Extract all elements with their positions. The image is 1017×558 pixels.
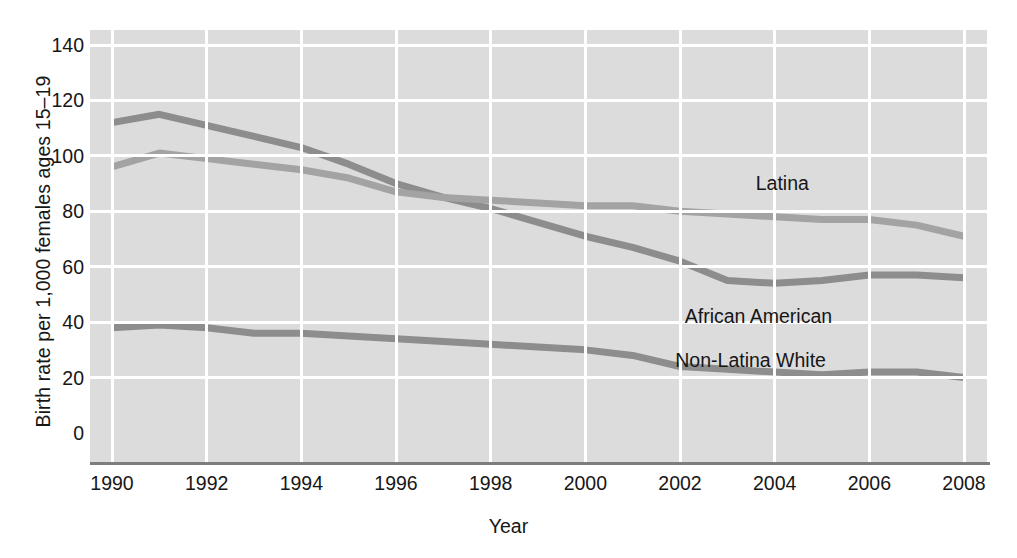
series-lines [90, 30, 987, 463]
vertical-gridline [868, 30, 871, 463]
x-axis-line [90, 462, 990, 465]
vertical-gridline [111, 30, 114, 463]
y-tick-label: 140 [0, 34, 84, 57]
horizontal-gridline [90, 321, 987, 324]
vertical-gridline [584, 30, 587, 463]
series-label-latina: Latina [756, 172, 809, 195]
vertical-gridline [679, 30, 682, 463]
y-tick-label: 80 [0, 200, 84, 223]
y-tick-label: 60 [0, 255, 84, 278]
y-tick-label: 0 [0, 422, 84, 445]
x-axis-title: Year [0, 515, 1017, 538]
x-tick-label: 2002 [658, 472, 701, 495]
horizontal-gridline [90, 154, 987, 157]
x-tick-label: 2000 [564, 472, 607, 495]
vertical-gridline [773, 30, 776, 463]
y-tick-label: 20 [0, 366, 84, 389]
vertical-gridline [205, 30, 208, 463]
y-tick-label: 120 [0, 89, 84, 112]
chart-figure: Birth rate per 1,000 females ages 15–19 … [0, 0, 1017, 558]
y-tick-label: 40 [0, 311, 84, 334]
horizontal-gridline [90, 376, 987, 379]
vertical-gridline [963, 30, 966, 463]
horizontal-gridline [90, 44, 987, 47]
x-tick-label: 2004 [753, 472, 796, 495]
x-tick-label: 2008 [942, 472, 985, 495]
plot-area [90, 30, 987, 463]
y-axis-tick-labels: 020406080100120140 [0, 0, 84, 558]
vertical-gridline [489, 30, 492, 463]
series-label-non-latina-white: Non-Latina White [675, 349, 826, 372]
x-tick-label: 1996 [374, 472, 417, 495]
vertical-gridline [395, 30, 398, 463]
horizontal-gridline [90, 99, 987, 102]
horizontal-gridline [90, 265, 987, 268]
vertical-gridline [300, 30, 303, 463]
x-tick-label: 2006 [848, 472, 891, 495]
series-line [112, 325, 964, 378]
series-label-african-american: African American [685, 305, 832, 328]
x-tick-label: 1990 [90, 472, 133, 495]
y-tick-label: 100 [0, 144, 84, 167]
x-tick-label: 1994 [280, 472, 323, 495]
x-tick-label: 1998 [469, 472, 512, 495]
x-tick-label: 1992 [185, 472, 228, 495]
series-line [112, 114, 964, 283]
horizontal-gridline [90, 210, 987, 213]
